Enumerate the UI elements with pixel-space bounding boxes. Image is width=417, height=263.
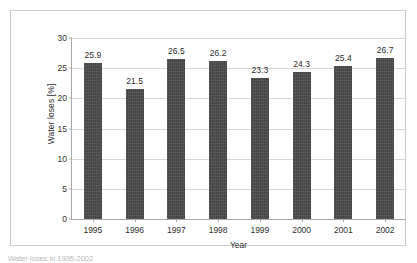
x-tick-mark [93,219,94,222]
x-tick-label: 2001 [334,225,353,235]
bar [126,89,144,219]
bar [376,58,394,219]
bar [167,59,185,219]
x-tick-label: 1996 [125,225,144,235]
x-tick-mark [176,219,177,222]
bar-group: 25.91995 [72,38,114,219]
bar-value-label: 26.5 [168,46,185,56]
x-tick-mark [343,219,344,222]
bar [209,61,227,219]
bar-value-label: 21.5 [126,76,143,86]
bar-group: 26.51997 [156,38,198,219]
bar-group: 23.31999 [239,38,281,219]
x-tick-label: 1995 [83,225,102,235]
y-tick-label: 10 [58,154,67,164]
x-tick-mark [260,219,261,222]
bar-value-label: 24.3 [293,59,310,69]
bar-group: 21.51996 [114,38,156,219]
x-tick-mark [302,219,303,222]
chart-frame: Water loses [%] 05101520253025.9199521.5… [10,10,406,246]
bar [293,72,311,219]
bar-group: 26.72002 [364,38,406,219]
bar-group: 24.32000 [281,38,323,219]
bar [84,63,102,219]
bar-value-label: 25.9 [85,50,102,60]
y-tick-label: 5 [62,184,67,194]
x-tick-label: 2002 [376,225,395,235]
x-tick-mark [218,219,219,222]
plot-area: 05101520253025.9199521.5199626.5199726.2… [71,38,406,220]
y-tick-label: 30 [58,33,67,43]
x-tick-label: 1997 [167,225,186,235]
bar-value-label: 26.2 [210,48,227,58]
bar-group: 26.21998 [197,38,239,219]
bar [251,78,269,219]
x-axis-title: Year [71,240,406,250]
y-tick-label: 15 [58,124,67,134]
y-tick-label: 20 [58,93,67,103]
figure-caption: Water loses in 1995-2002 [8,254,408,263]
y-tick-label: 0 [62,214,67,224]
bar-group: 25.42001 [323,38,365,219]
bar-value-label: 25.4 [335,53,352,63]
bar [334,66,352,219]
bar-value-label: 23.3 [252,65,269,75]
y-axis-title: Water loses [%] [46,39,58,189]
x-tick-label: 2000 [292,225,311,235]
x-tick-mark [385,219,386,222]
x-tick-mark [135,219,136,222]
bar-value-label: 26.7 [377,45,394,55]
y-tick-label: 25 [58,63,67,73]
x-tick-label: 1998 [209,225,228,235]
x-tick-label: 1999 [250,225,269,235]
